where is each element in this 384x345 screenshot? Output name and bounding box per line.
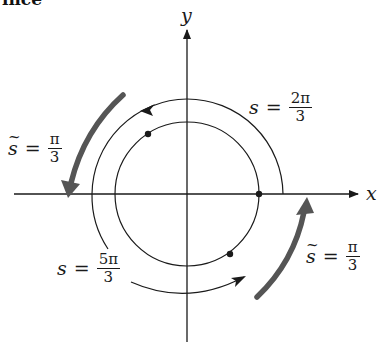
label-s-5pi-3: s = 5π 3 [57, 252, 120, 285]
lower-arc-arrowhead-icon [231, 276, 246, 287]
tilde-accent: ~ [306, 238, 319, 253]
label-op: = [266, 98, 282, 117]
thick-arrow-upper-left [61, 95, 123, 198]
label-var: ~ s [306, 247, 316, 266]
thick-arrowhead-up-icon [296, 197, 314, 215]
fraction-numerator: π [48, 132, 62, 149]
point-s-0 [256, 191, 262, 197]
fraction-denominator: 3 [104, 269, 114, 285]
point-s-5pi-3 [227, 251, 233, 257]
fraction-numerator: π [346, 240, 360, 257]
fraction: π 3 [346, 240, 360, 273]
thick-arrowhead-down-icon [61, 180, 80, 198]
label-stilde-upper: ~ s = π 3 [8, 132, 62, 165]
label-var: s [249, 98, 259, 117]
circle-diagram: ince [0, 0, 384, 345]
label-op: = [323, 247, 339, 266]
label-s-2pi-3: s = 2π 3 [249, 91, 312, 124]
diagram-canvas [0, 0, 384, 345]
label-var: s [57, 259, 67, 278]
fraction: π 3 [48, 132, 62, 165]
fraction-numerator: 5π [97, 252, 120, 269]
x-axis-label: x [366, 184, 377, 203]
fraction: 2π 3 [289, 91, 312, 124]
fraction-denominator: 3 [296, 108, 306, 124]
point-s-2pi-3 [145, 131, 151, 137]
outer-arc-arrowhead-icon [140, 104, 155, 116]
fraction-numerator: 2π [289, 91, 312, 108]
fraction: 5π 3 [97, 252, 120, 285]
label-var: ~ s [8, 139, 18, 158]
label-op: = [74, 259, 90, 278]
tilde-accent: ~ [8, 130, 21, 145]
y-axis-label: y [181, 6, 192, 25]
label-op: = [25, 139, 41, 158]
label-stilde-lower: ~ s = π 3 [306, 240, 360, 273]
fraction-denominator: 3 [50, 149, 60, 165]
fraction-denominator: 3 [348, 257, 358, 273]
